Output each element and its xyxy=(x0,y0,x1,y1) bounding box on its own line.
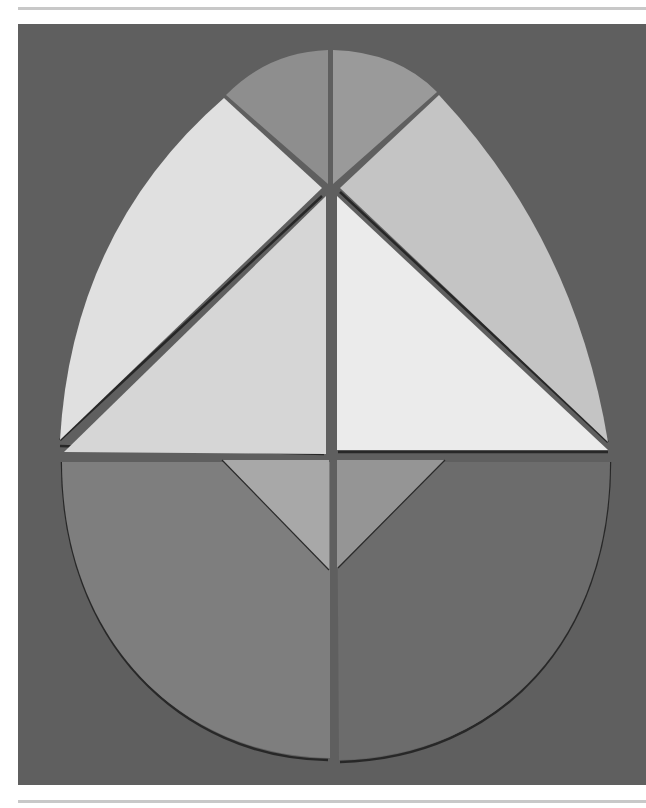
tangram-photo: Egg-shaped tangram made of nine grayscal… xyxy=(18,24,646,785)
top-rule xyxy=(18,7,646,10)
bottom-rule xyxy=(18,800,646,803)
